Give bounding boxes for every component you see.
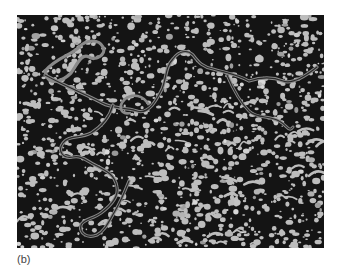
micrograph-svg xyxy=(17,15,324,248)
panel-label: (b) xyxy=(17,252,30,266)
micrograph-image xyxy=(17,15,324,248)
